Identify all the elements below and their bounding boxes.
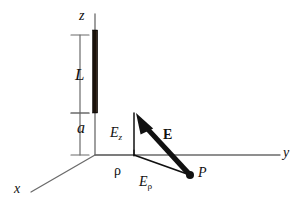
rod-length-label: L [75, 66, 84, 83]
axes-group [31, 14, 280, 192]
x-axis-line [31, 155, 95, 192]
Erho-base-letter: E [139, 174, 148, 189]
charged-rod-group [93, 30, 98, 113]
Ez-base-letter: E [110, 125, 119, 140]
z-axis-label: z [79, 9, 84, 23]
gap-distance-label: a [77, 120, 85, 136]
point-P-marker [186, 171, 194, 179]
rod-highlight [96, 31, 97, 112]
Ez-subscript: z [119, 132, 123, 142]
point-P-label: P [198, 166, 207, 180]
Ez-component-label: Ez [110, 126, 122, 142]
physics-diagram-figure: z L a x y Ez E ρ Eρ P [0, 0, 302, 208]
y-axis-label: y [283, 146, 289, 160]
Erho-subscript: ρ [148, 181, 153, 191]
E-field-vector-group [136, 113, 192, 177]
rho-distance-label: ρ [114, 164, 121, 178]
Erho-component-label: Eρ [139, 175, 152, 191]
x-axis-label: x [14, 182, 20, 196]
E-field-vector-label: E [163, 128, 172, 142]
